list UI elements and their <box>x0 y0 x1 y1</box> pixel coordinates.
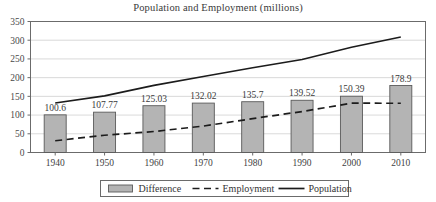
x-tick-label: 1950 <box>95 158 114 168</box>
chart-plot-area: 050100150200250300350 100.6107.77125.031… <box>0 0 436 202</box>
bar <box>192 103 214 152</box>
plot-border <box>31 22 426 153</box>
bar <box>44 115 66 153</box>
bar-value-label: 135.7 <box>242 90 264 100</box>
bar-value-label: 100.6 <box>45 103 67 113</box>
x-tick-label: 1970 <box>194 158 213 168</box>
x-tick-label: 1990 <box>293 158 312 168</box>
bar-value-label: 125.03 <box>141 94 167 104</box>
y-tick-label: 250 <box>10 54 25 64</box>
legend-swatch-difference <box>109 185 133 192</box>
bar-value-label: 107.77 <box>92 100 118 110</box>
bar-value-label: 150.39 <box>338 84 364 94</box>
y-tick-label: 50 <box>15 129 25 139</box>
bar-value-label: 178.9 <box>390 74 412 84</box>
y-tick-label: 100 <box>10 110 25 120</box>
x-tick-label: 1940 <box>46 158 65 168</box>
bar <box>291 100 313 152</box>
y-axis-tick-labels: 050100150200250300350 <box>10 17 30 158</box>
legend-label: Difference <box>139 183 182 194</box>
y-tick-label: 0 <box>20 148 25 158</box>
y-tick-label: 350 <box>10 17 25 27</box>
legend-label: Employment <box>223 183 275 194</box>
bar <box>143 106 165 153</box>
x-tick-label: 2000 <box>342 158 361 168</box>
chart-legend: DifferenceEmploymentPopulation <box>101 181 352 197</box>
x-axis-tick-labels: 19401950196019701980199020002010 <box>46 153 411 168</box>
x-tick-label: 1960 <box>144 158 163 168</box>
bar-value-label: 132.02 <box>190 91 216 101</box>
bar-value-label: 139.52 <box>289 88 315 98</box>
gridlines-group <box>31 22 426 134</box>
x-tick-label: 1980 <box>243 158 262 168</box>
x-tick-label: 2010 <box>391 158 410 168</box>
chart-container: Population and Employment (millions) 050… <box>0 0 436 202</box>
plot-frame <box>31 22 426 153</box>
y-tick-label: 300 <box>10 36 25 46</box>
bar <box>242 102 264 153</box>
bar <box>390 86 412 153</box>
bar <box>94 112 116 152</box>
legend-label: Population <box>309 183 352 194</box>
bar-series-difference <box>44 86 412 153</box>
y-tick-label: 200 <box>10 73 25 83</box>
y-tick-label: 150 <box>10 92 25 102</box>
